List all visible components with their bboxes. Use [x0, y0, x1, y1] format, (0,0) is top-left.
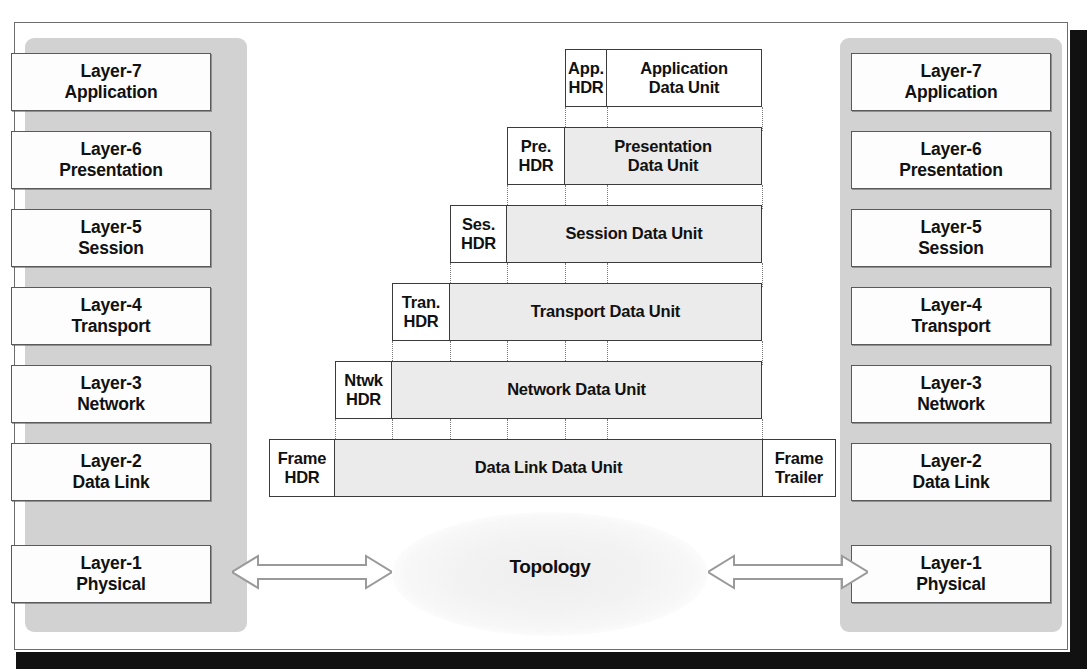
right-layer-1-name: Physical	[916, 574, 985, 595]
left-layer-box-2[interactable]: Layer-2 Data Link	[11, 443, 211, 501]
right-layer-7-number: Layer-7	[921, 61, 982, 82]
guide-tran-right	[762, 341, 763, 365]
right-layer-7-name: Application	[904, 82, 997, 103]
left-layer-1-name: Physical	[76, 574, 145, 595]
ntwk-hdr-line2: HDR	[346, 390, 381, 409]
right-layer-box-1[interactable]: Layer-1 Physical	[851, 545, 1051, 603]
ntwk-data-unit-cell: Network Data Unit	[392, 361, 762, 419]
left-layer-2-name: Data Link	[73, 472, 150, 493]
pdu-row-application: App. HDR Application Data Unit	[565, 49, 762, 107]
left-layer-box-1[interactable]: Layer-1 Physical	[11, 545, 211, 603]
left-layer-box-4[interactable]: Layer-4 Transport	[11, 287, 211, 345]
right-layer-box-4[interactable]: Layer-4 Transport	[851, 287, 1051, 345]
pre-hdr-cell: Pre. HDR	[507, 127, 565, 185]
right-layer-3-name: Network	[917, 394, 985, 415]
right-layer-box-2[interactable]: Layer-2 Data Link	[851, 443, 1051, 501]
frame-drop-shadow-bottom	[16, 652, 1087, 669]
left-layer-7-number: Layer-7	[81, 61, 142, 82]
frame-trailer-line1: Frame	[775, 449, 824, 468]
left-layer-box-6[interactable]: Layer-6 Presentation	[11, 131, 211, 189]
osi-encapsulation-diagram: Layer-7 Application Layer-6 Presentation…	[0, 0, 1091, 669]
app-hdr-cell: App. HDR	[565, 49, 607, 107]
right-layer-box-5[interactable]: Layer-5 Session	[851, 209, 1051, 267]
tran-data-unit-cell: Transport Data Unit	[450, 283, 762, 341]
right-layer-5-number: Layer-5	[921, 217, 982, 238]
right-layer-4-name: Transport	[912, 316, 991, 337]
left-layer-4-name: Transport	[72, 316, 151, 337]
left-layer-4-number: Layer-4	[81, 295, 142, 316]
left-layer-5-name: Session	[78, 238, 144, 259]
left-layer-box-3[interactable]: Layer-3 Network	[11, 365, 211, 423]
right-layer-2-number: Layer-2	[921, 451, 982, 472]
left-layer-1-number: Layer-1	[81, 553, 142, 574]
left-layer-2-number: Layer-2	[81, 451, 142, 472]
topology-label: Topology	[392, 556, 708, 578]
guide-app-right	[762, 107, 763, 131]
frame-hdr-line2: HDR	[284, 468, 319, 487]
pdu-row-network: Ntwk HDR Network Data Unit	[335, 361, 762, 419]
frame-hdr-line1: Frame	[278, 449, 327, 468]
right-layer-1-number: Layer-1	[921, 553, 982, 574]
ses-data-unit-cell: Session Data Unit	[507, 205, 762, 263]
right-layer-box-3[interactable]: Layer-3 Network	[851, 365, 1051, 423]
right-layer-4-number: Layer-4	[921, 295, 982, 316]
right-layer-box-7[interactable]: Layer-7 Application	[851, 53, 1051, 111]
app-hdr-line1: App.	[568, 59, 604, 78]
pdu-row-presentation: Pre. HDR Presentation Data Unit	[507, 127, 762, 185]
right-layer-3-number: Layer-3	[921, 373, 982, 394]
right-layer-6-name: Presentation	[899, 160, 1003, 181]
tran-hdr-line1: Tran.	[402, 293, 440, 312]
ses-body-line1: Session Data Unit	[566, 224, 703, 243]
frame-drop-shadow-right	[1070, 30, 1087, 669]
left-layer-6-name: Presentation	[59, 160, 163, 181]
ses-hdr-cell: Ses. HDR	[450, 205, 507, 263]
pdu-row-session: Ses. HDR Session Data Unit	[450, 205, 762, 263]
ses-hdr-line2: HDR	[461, 234, 496, 253]
right-layer-2-name: Data Link	[913, 472, 990, 493]
left-layer-box-5[interactable]: Layer-5 Session	[11, 209, 211, 267]
pdu-row-data-link: Frame HDR Data Link Data Unit Frame Trai…	[269, 439, 836, 497]
right-layer-box-6[interactable]: Layer-6 Presentation	[851, 131, 1051, 189]
ntwk-hdr-line1: Ntwk	[344, 371, 383, 390]
app-body-line2: Data Unit	[649, 78, 720, 97]
guide-ses-right	[762, 263, 763, 287]
pre-body-line1: Presentation	[614, 137, 712, 156]
left-layer-5-number: Layer-5	[81, 217, 142, 238]
guide-pre-right	[762, 185, 763, 209]
left-layer-3-number: Layer-3	[81, 373, 142, 394]
pdu-row-transport: Tran. HDR Transport Data Unit	[392, 283, 762, 341]
ses-hdr-line1: Ses.	[462, 215, 495, 234]
pre-data-unit-cell: Presentation Data Unit	[565, 127, 762, 185]
left-layer-box-7[interactable]: Layer-7 Application	[11, 53, 211, 111]
ntwk-body-line1: Network Data Unit	[507, 380, 646, 399]
frame-hdr-cell: Frame HDR	[269, 439, 335, 497]
bidirectional-arrow-left-icon	[232, 548, 392, 596]
frame-trailer-cell: Frame Trailer	[763, 439, 836, 497]
app-body-line1: Application	[640, 59, 728, 78]
tran-body-line1: Transport Data Unit	[531, 302, 680, 321]
tran-hdr-cell: Tran. HDR	[392, 283, 450, 341]
app-data-unit-cell: Application Data Unit	[607, 49, 762, 107]
right-layer-5-name: Session	[918, 238, 984, 259]
datalink-body-line1: Data Link Data Unit	[475, 458, 622, 477]
ntwk-hdr-cell: Ntwk HDR	[335, 361, 392, 419]
datalink-data-unit-cell: Data Link Data Unit	[335, 439, 763, 497]
app-hdr-line2: HDR	[568, 78, 603, 97]
left-layer-7-name: Application	[64, 82, 157, 103]
bidirectional-arrow-right-icon	[708, 548, 868, 596]
left-layer-6-number: Layer-6	[81, 139, 142, 160]
pre-hdr-line1: Pre.	[521, 137, 551, 156]
pre-hdr-line2: HDR	[518, 156, 553, 175]
left-layer-3-name: Network	[77, 394, 145, 415]
pre-body-line2: Data Unit	[628, 156, 699, 175]
frame-trailer-line2: Trailer	[775, 468, 823, 487]
tran-hdr-line2: HDR	[403, 312, 438, 331]
right-layer-6-number: Layer-6	[921, 139, 982, 160]
